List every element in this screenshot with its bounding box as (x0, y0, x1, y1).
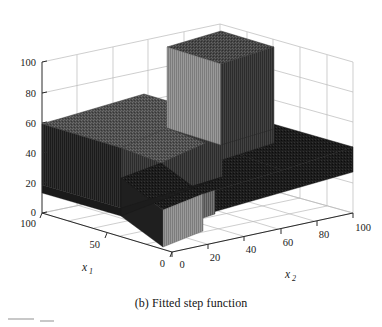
x1-axis-title-subscript: 1 (89, 267, 93, 276)
z-tick-label-100: 100 (20, 57, 36, 68)
scan-artifact (8, 318, 34, 320)
x2-axis-title: x 2 (284, 268, 296, 283)
x2-tick-label-20: 20 (210, 252, 221, 263)
x2-tick-label-100: 100 (355, 222, 371, 233)
z-tick-label-0: 0 (31, 207, 36, 218)
z-tick-label-80: 80 (26, 88, 37, 99)
step-surface-mesh (42, 31, 353, 247)
x1-tick-label-50: 50 (90, 239, 101, 250)
scan-artifact (40, 320, 54, 322)
x2-axis-title-subscript: 2 (292, 274, 296, 283)
x2-tick-label-40: 40 (246, 244, 257, 255)
figure-panel: 100 80 60 40 20 0 100 50 0 0 20 (0, 0, 382, 327)
step-function-surface-plot: 100 80 60 40 20 0 100 50 0 0 20 (0, 0, 382, 327)
z-tick-label-40: 40 (26, 148, 37, 159)
x2-tick-label-80: 80 (319, 229, 330, 240)
z-axis-tick-labels: 100 80 60 40 20 0 (20, 57, 36, 218)
figure-caption: (b) Fitted step function (0, 296, 382, 311)
x1-tick-label-0: 0 (160, 258, 165, 269)
z-tick-label-20: 20 (26, 178, 37, 189)
x1-axis-title-text: x (81, 261, 88, 273)
z-tick-label-60: 60 (26, 118, 37, 129)
x2-axis-title-text: x (284, 268, 291, 280)
x1-axis-title: x 1 (81, 261, 93, 276)
x1-tick-label-100: 100 (20, 218, 36, 229)
x2-tick-label-0: 0 (179, 259, 184, 270)
x2-tick-label-60: 60 (283, 237, 294, 248)
